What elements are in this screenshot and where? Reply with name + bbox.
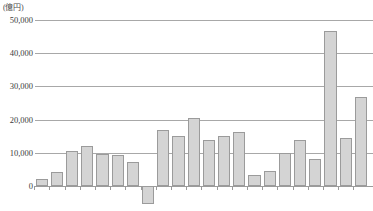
y-axis-tick-label: 30,000 bbox=[0, 81, 33, 91]
bar bbox=[112, 155, 124, 186]
x-axis-tick bbox=[156, 186, 157, 190]
bar bbox=[248, 175, 260, 186]
bar bbox=[294, 140, 306, 186]
x-axis-tick bbox=[338, 186, 339, 190]
x-axis-tick bbox=[110, 186, 111, 190]
bar bbox=[142, 186, 154, 204]
bar bbox=[233, 132, 245, 186]
gridline bbox=[35, 53, 373, 54]
bar bbox=[127, 162, 139, 186]
x-axis-tick bbox=[171, 186, 172, 190]
x-axis-tick bbox=[80, 186, 81, 190]
x-axis-tick bbox=[65, 186, 66, 190]
y-axis-unit-label: (億円) bbox=[3, 1, 24, 12]
x-axis-tick bbox=[232, 186, 233, 190]
x-axis-tick bbox=[49, 186, 50, 190]
bar bbox=[218, 136, 230, 186]
x-axis-tick bbox=[262, 186, 263, 190]
y-axis-tick-label: 20,000 bbox=[0, 115, 33, 125]
plot-area bbox=[35, 18, 373, 186]
bar bbox=[340, 138, 352, 186]
x-axis-tick bbox=[34, 186, 35, 190]
gridline bbox=[35, 20, 373, 21]
bar bbox=[355, 97, 367, 186]
bar bbox=[279, 153, 291, 186]
bar bbox=[66, 151, 78, 186]
x-axis-tick bbox=[125, 186, 126, 190]
x-axis-tick bbox=[201, 186, 202, 190]
x-axis-tick bbox=[293, 186, 294, 190]
y-axis-tick-label: 10,000 bbox=[0, 148, 33, 158]
bar bbox=[81, 146, 93, 186]
y-axis-tick-label: 0 bbox=[0, 181, 33, 191]
bar bbox=[324, 31, 336, 186]
x-axis-tick bbox=[323, 186, 324, 190]
bar-chart: (億円) 50,00040,00030,00020,00010,0000 bbox=[0, 0, 373, 211]
x-axis-tick bbox=[141, 186, 142, 190]
bar bbox=[309, 159, 321, 186]
bar bbox=[157, 130, 169, 186]
x-axis-tick bbox=[353, 186, 354, 190]
bar bbox=[96, 154, 108, 186]
bar bbox=[264, 171, 276, 186]
bar bbox=[172, 136, 184, 186]
x-axis-tick bbox=[95, 186, 96, 190]
y-axis-ticks: 50,00040,00030,00020,00010,0000 bbox=[0, 18, 33, 186]
x-axis-tick bbox=[217, 186, 218, 190]
bar bbox=[203, 140, 215, 186]
bar bbox=[188, 118, 200, 186]
x-axis-tick bbox=[247, 186, 248, 190]
bar bbox=[36, 179, 48, 186]
y-axis-tick-label: 40,000 bbox=[0, 48, 33, 58]
gridline bbox=[35, 86, 373, 87]
x-axis-tick bbox=[186, 186, 187, 190]
x-axis-tick bbox=[277, 186, 278, 190]
bar bbox=[51, 172, 63, 186]
x-axis-tick bbox=[308, 186, 309, 190]
gridline bbox=[35, 120, 373, 121]
y-axis-tick-label: 50,000 bbox=[0, 15, 33, 25]
